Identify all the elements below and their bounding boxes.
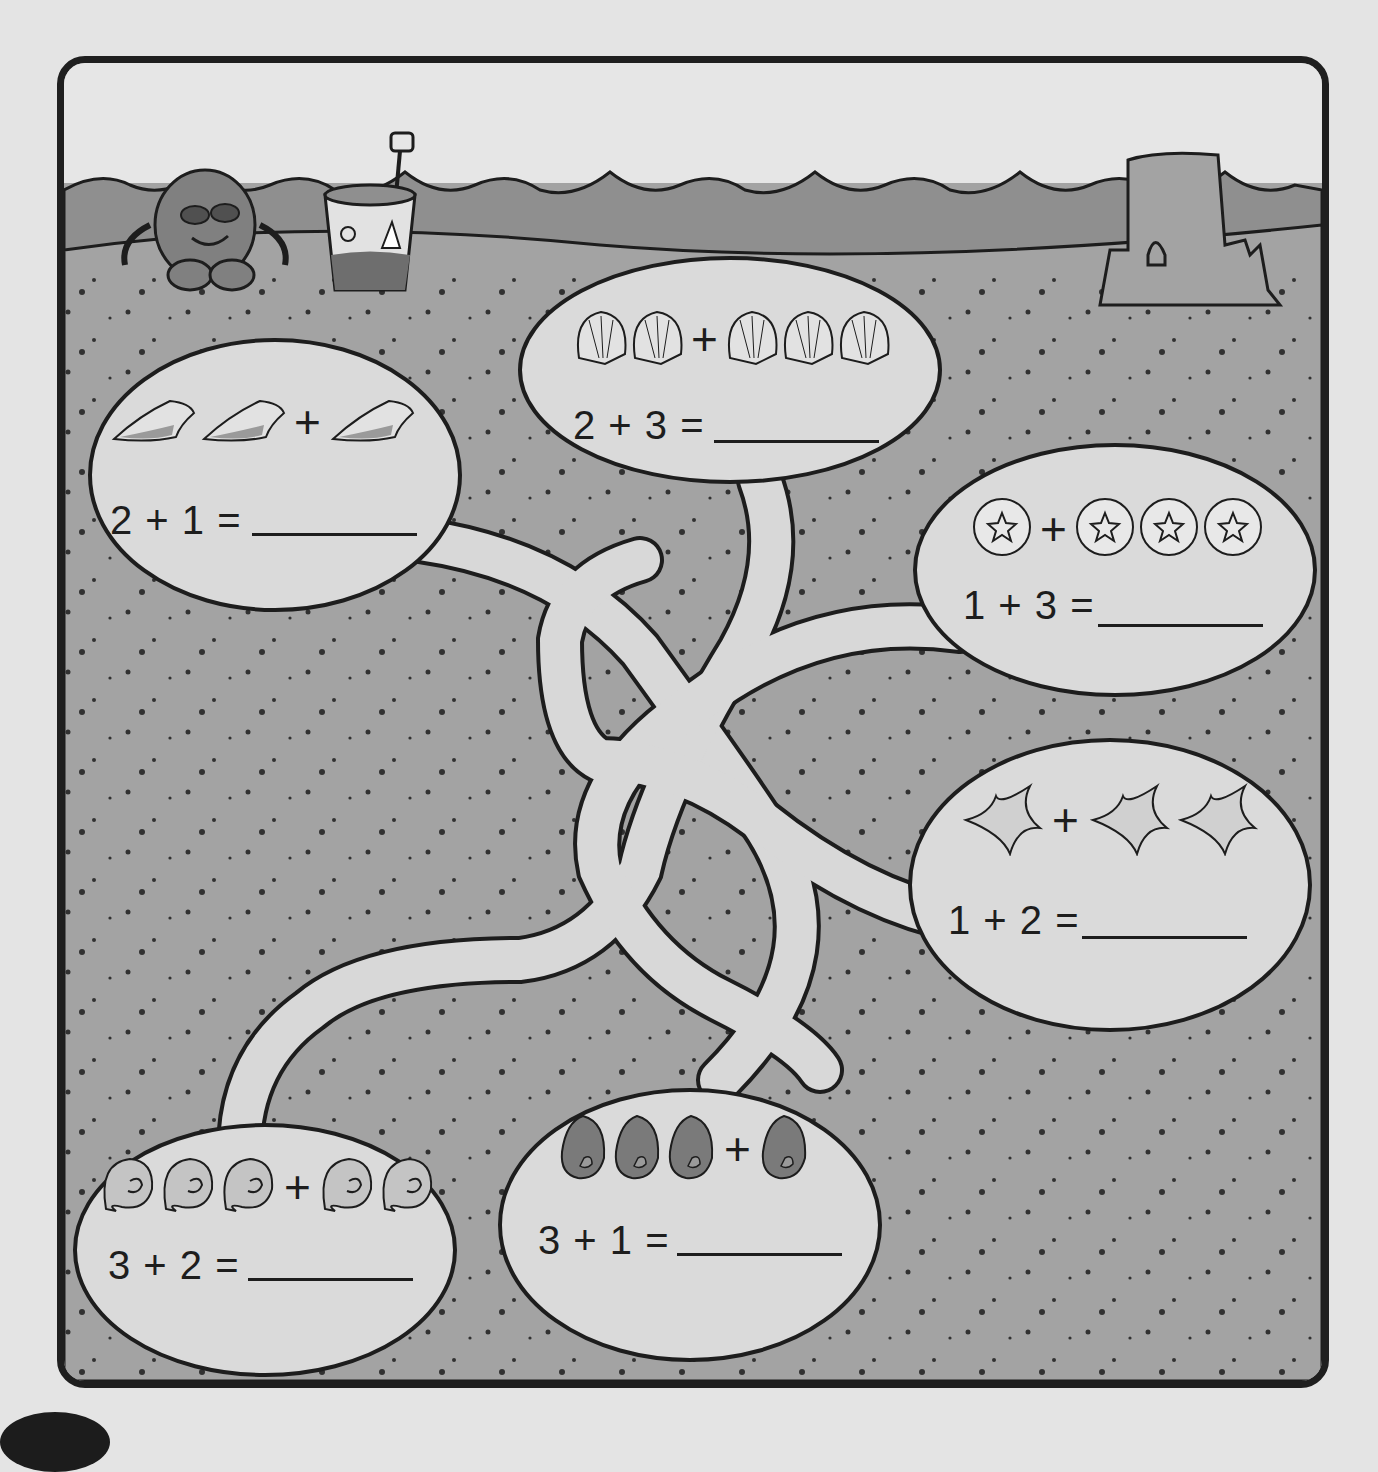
sand-dollar-icon (1075, 497, 1135, 561)
spiral-shell-icon (379, 1155, 435, 1219)
sand-dollar-icon (1203, 497, 1263, 561)
scallop-shell-icon (631, 308, 683, 370)
scallop-shell-icon (575, 308, 627, 370)
plus-sign: + (691, 316, 718, 362)
plus-sign: + (724, 1126, 751, 1172)
item-row-scallop: + (575, 308, 890, 370)
item-row-starfish: + (960, 780, 1259, 860)
spiral-shell-icon (160, 1155, 216, 1219)
equation-sand-dollar: 1 + 3 = (963, 585, 1095, 625)
item-row-mussel: + (558, 1112, 809, 1186)
equation-scallop: 2 + 3 = (573, 405, 705, 445)
starfish-icon (1087, 780, 1171, 860)
scallop-shell-icon (838, 308, 890, 370)
answer-blank-scallop[interactable] (714, 440, 879, 443)
equation-starfish: 1 + 2 = (948, 900, 1080, 940)
scallop-shell-icon (726, 308, 778, 370)
mussel-shell-icon (759, 1112, 809, 1186)
item-row-sand-dollar: + (972, 497, 1263, 561)
mussel-shell-icon (558, 1112, 608, 1186)
mussel-shell-icon (666, 1112, 716, 1186)
answer-blank-starfish[interactable] (1082, 936, 1247, 939)
plus-sign: + (1040, 506, 1067, 552)
mussel-shell-icon (612, 1112, 662, 1186)
scallop-shell-icon (782, 308, 834, 370)
spiral-shell-icon (100, 1155, 156, 1219)
plus-sign: + (284, 1164, 311, 1210)
answer-blank-nautilus[interactable] (248, 1278, 413, 1281)
starfish-icon (1175, 780, 1259, 860)
conch-shell-icon (329, 395, 415, 449)
equation-conch: 2 + 1 = (110, 500, 242, 540)
answer-blank-mussel[interactable] (677, 1253, 842, 1256)
conch-shell-icon (200, 395, 286, 449)
starfish-icon (960, 780, 1044, 860)
spiral-shell-icon (220, 1155, 276, 1219)
spiral-shell-icon (319, 1155, 375, 1219)
conch-shell-icon (110, 395, 196, 449)
page-number-badge (0, 1412, 110, 1472)
sand-dollar-icon (972, 497, 1032, 561)
equation-nautilus: 3 + 2 = (108, 1245, 240, 1285)
equation-mussel: 3 + 1 = (538, 1220, 670, 1260)
plus-sign: + (294, 399, 321, 445)
plus-sign: + (1052, 797, 1079, 843)
item-row-conch: + (110, 395, 415, 449)
item-row-nautilus: + (100, 1155, 435, 1219)
sand-dollar-icon (1139, 497, 1199, 561)
answer-blank-conch[interactable] (252, 533, 417, 536)
answer-blank-sand-dollar[interactable] (1098, 624, 1263, 627)
